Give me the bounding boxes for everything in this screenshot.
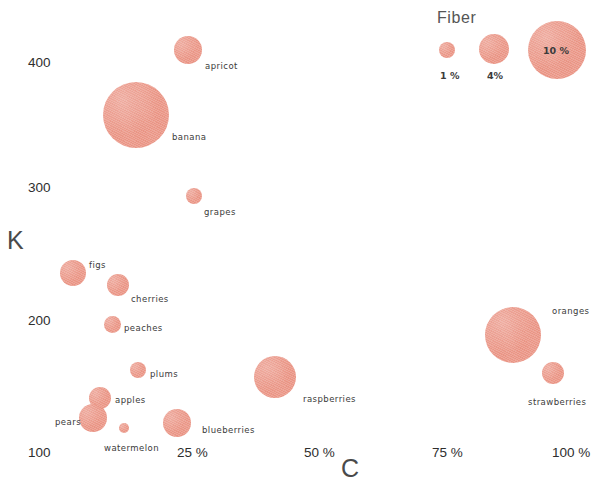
- legend-label-10: 10 %: [543, 46, 569, 56]
- x-tick-100: 100 %: [552, 446, 590, 460]
- legend-label-4: 4%: [487, 71, 503, 81]
- legend-bubble-4: [479, 34, 509, 64]
- x-tick-50: 50 %: [304, 446, 335, 460]
- bubble-label-plums: plums: [150, 370, 178, 379]
- y-axis-title: K: [7, 228, 24, 253]
- bubble-label-watermelon: watermelon: [104, 444, 159, 453]
- bubble-label-figs: figs: [89, 261, 106, 270]
- legend-bubble-1: [439, 42, 455, 58]
- bubble-strawberries[interactable]: [542, 362, 564, 384]
- bubble-label-apricot: apricot: [205, 62, 238, 71]
- x-tick-75: 75 %: [432, 446, 463, 460]
- bubble-watermelon[interactable]: [119, 423, 129, 433]
- bubble-label-pears: pears: [55, 418, 81, 427]
- bubble-label-banana: banana: [172, 133, 207, 142]
- x-tick-25: 25 %: [177, 446, 208, 460]
- y-tick-100: 100: [28, 446, 51, 460]
- bubble-oranges[interactable]: [485, 307, 541, 363]
- bubble-label-oranges: oranges: [552, 307, 590, 316]
- bubble-raspberries[interactable]: [254, 356, 296, 398]
- x-axis-title: C: [341, 456, 359, 481]
- legend-label-1: 1 %: [440, 71, 459, 81]
- bubble-cherries[interactable]: [107, 274, 129, 296]
- y-tick-200: 200: [28, 314, 51, 328]
- y-tick-300: 300: [28, 181, 51, 195]
- bubble-figs[interactable]: [60, 260, 86, 286]
- bubble-blueberries[interactable]: [163, 409, 191, 437]
- y-tick-400: 400: [28, 56, 51, 70]
- bubble-label-strawberries: strawberries: [528, 398, 586, 407]
- bubble-chart: bananaapricotgrapesfigscherriespeachespl…: [0, 0, 593, 483]
- bubble-label-apples: apples: [115, 396, 146, 405]
- bubble-label-cherries: cherries: [131, 295, 169, 304]
- bubble-label-blueberries: blueberries: [202, 426, 255, 435]
- bubble-pears[interactable]: [79, 404, 107, 432]
- legend-title: Fiber: [437, 10, 476, 26]
- bubble-label-raspberries: raspberries: [303, 395, 356, 404]
- bubble-label-grapes: grapes: [204, 208, 236, 217]
- bubble-banana[interactable]: [103, 82, 169, 148]
- bubble-peaches[interactable]: [104, 316, 121, 333]
- bubble-apricot[interactable]: [174, 36, 202, 64]
- bubble-label-peaches: peaches: [124, 324, 163, 333]
- bubble-grapes[interactable]: [186, 188, 202, 204]
- bubble-plums[interactable]: [130, 362, 146, 378]
